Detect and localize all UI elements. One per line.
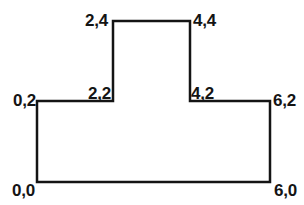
diagram-canvas: 0,2 2,2 4,2 6,2 2,4 4,4 0,0 6,0 (0, 0, 304, 205)
vertex-label-2-4: 2,4 (85, 12, 108, 29)
vertex-label-4-2: 4,2 (191, 85, 214, 102)
vertex-label-6-2: 6,2 (273, 92, 296, 109)
vertex-label-0-2: 0,2 (13, 92, 36, 109)
vertex-label-2-2: 2,2 (88, 85, 111, 102)
vertex-label-4-4: 4,4 (193, 12, 216, 29)
t-shape-polygon (0, 0, 304, 205)
vertex-label-0-0: 0,0 (12, 182, 35, 199)
vertex-label-6-0: 6,0 (274, 182, 297, 199)
polygon-outline (37, 21, 270, 182)
